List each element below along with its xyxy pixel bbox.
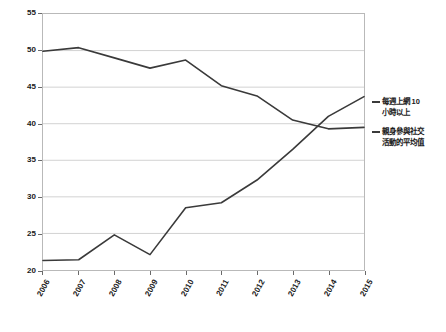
series-lines-group bbox=[43, 48, 364, 261]
x-axis-tick-mark bbox=[221, 271, 222, 275]
x-axis-tick-mark bbox=[329, 271, 330, 275]
x-axis-tick-mark bbox=[114, 271, 115, 275]
y-axis-tick-label: 35 bbox=[8, 155, 36, 164]
y-axis-tick-label: 30 bbox=[8, 192, 36, 201]
x-axis-tick-mark bbox=[293, 271, 294, 275]
x-axis-tick-label: 2010 bbox=[167, 278, 196, 319]
y-axis-tick-mark bbox=[38, 13, 42, 14]
y-axis-tick-label: 45 bbox=[8, 82, 36, 91]
y-axis-tick-mark bbox=[38, 160, 42, 161]
legend-item[interactable]: 每週上網 10 小時以上 bbox=[372, 96, 446, 118]
legend-item[interactable]: 親身參與社交 活動的平均值 bbox=[372, 126, 446, 148]
x-axis-tick-mark bbox=[42, 271, 43, 275]
x-axis-tick-label: 2009 bbox=[131, 278, 160, 319]
y-axis-tick-mark bbox=[38, 197, 42, 198]
y-axis-tick-mark bbox=[38, 50, 42, 51]
x-axis-tick-label: 2007 bbox=[59, 278, 88, 319]
legend-line-icon bbox=[372, 101, 380, 103]
legend-label-line2: 小時以上 bbox=[382, 108, 410, 117]
y-axis-tick-label: 55 bbox=[8, 8, 36, 17]
x-axis-tick-label: 2011 bbox=[202, 278, 231, 319]
y-axis-tick-mark bbox=[38, 87, 42, 88]
x-axis-tick-label: 2014 bbox=[310, 278, 339, 319]
x-axis-tick-mark bbox=[365, 271, 366, 275]
x-axis-tick-mark bbox=[186, 271, 187, 275]
y-axis-tick-label: 50 bbox=[8, 45, 36, 54]
y-axis-tick-mark bbox=[38, 124, 42, 125]
plot-area bbox=[42, 13, 365, 271]
legend-line-icon bbox=[372, 131, 380, 133]
x-axis-tick-mark bbox=[257, 271, 258, 275]
legend-item-label: 親身參與社交 活動的平均值 bbox=[382, 126, 446, 148]
series-layer bbox=[43, 14, 364, 270]
legend-label-line1: 親身參與社交 bbox=[382, 127, 423, 136]
x-axis-tick-label: 2008 bbox=[95, 278, 124, 319]
y-axis-tick-label: 40 bbox=[8, 119, 36, 128]
x-axis-tick-label: 2015 bbox=[346, 278, 375, 319]
legend-label-line2: 活動的平均值 bbox=[382, 138, 423, 147]
x-axis-tick-mark bbox=[78, 271, 79, 275]
legend-label-line1: 每週上網 10 bbox=[382, 97, 420, 106]
x-axis-tick-label: 2013 bbox=[274, 278, 303, 319]
series-line bbox=[43, 97, 364, 261]
y-axis-tick-label: 25 bbox=[8, 229, 36, 238]
y-axis-tick-mark bbox=[38, 234, 42, 235]
legend-item-label: 每週上網 10 小時以上 bbox=[382, 96, 446, 118]
chart-legend: 每週上網 10 小時以上 親身參與社交 活動的平均值 bbox=[372, 96, 446, 156]
y-axis-tick-label: 20 bbox=[8, 266, 36, 275]
x-axis-tick-label: 2012 bbox=[238, 278, 267, 319]
x-axis-tick-mark bbox=[150, 271, 151, 275]
line-chart: 2025303540455055 20062007200820092010201… bbox=[0, 0, 446, 332]
x-axis-tick-label: 2006 bbox=[23, 278, 52, 319]
series-line bbox=[43, 48, 364, 129]
